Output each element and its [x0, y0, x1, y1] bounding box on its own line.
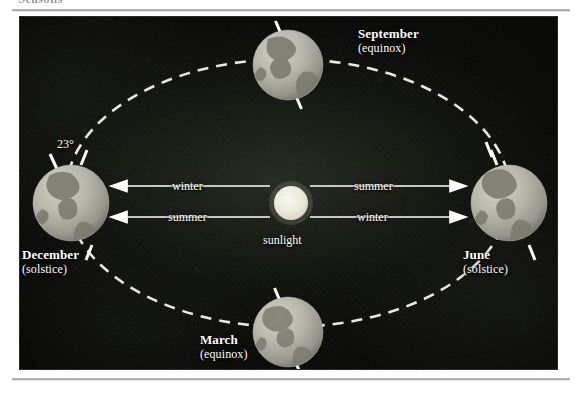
axis-tick-december-north [81, 150, 87, 165]
axis-tick-december-south [86, 245, 92, 260]
label-december-event: (solstice) [22, 262, 79, 276]
label-june-event: (solstice) [463, 262, 508, 276]
horizontal-rule-top [12, 9, 570, 11]
globe-june-group [471, 142, 547, 260]
sunlight-label: sunlight [263, 233, 302, 248]
page-heading: Seasons [18, 0, 63, 7]
globe-december-group [33, 150, 109, 260]
axial-tilt-annotation: 23° [57, 137, 74, 152]
figure-page: Seasons [0, 0, 583, 400]
season-label-summer-left: summer [168, 210, 207, 225]
arrow-head-summer-left [111, 212, 127, 223]
globe-september-group [253, 21, 323, 109]
season-label-winter-right: winter [357, 210, 388, 225]
arrow-head-winter-left [111, 181, 127, 192]
label-december: December (solstice) [22, 248, 79, 276]
globe-march-group [253, 288, 323, 369]
label-march-month: March [200, 333, 248, 347]
sun-group [269, 181, 313, 225]
axis-tick-june-north-2 [486, 142, 492, 157]
label-december-month: December [22, 248, 79, 262]
axis-tick-june-south [529, 245, 535, 260]
label-june-month: June [463, 248, 508, 262]
axis-tick-june-north [491, 150, 497, 165]
sun-disc [274, 186, 308, 220]
horizontal-rule-bottom [12, 378, 570, 380]
seasons-diagram: September (equinox) December (solstice) … [20, 17, 557, 369]
label-march: March (equinox) [200, 333, 248, 361]
season-label-winter-left: winter [172, 179, 203, 194]
label-september-event: (equinox) [358, 41, 419, 55]
tilt-tick-left [50, 154, 57, 169]
label-september: September (equinox) [358, 27, 419, 55]
label-march-event: (equinox) [200, 347, 248, 361]
arrow-head-summer-right [450, 181, 466, 192]
label-june: June (solstice) [463, 248, 508, 276]
season-label-summer-right: summer [354, 179, 393, 194]
label-september-month: September [358, 27, 419, 41]
arrow-head-winter-right [450, 212, 466, 223]
diagram-vector-layer [20, 17, 557, 369]
